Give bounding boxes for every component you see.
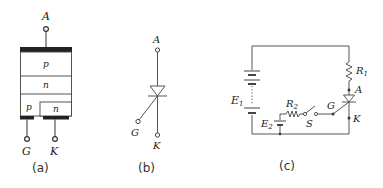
layer-p1-label: p xyxy=(43,59,49,69)
e2-label: E2 xyxy=(260,118,273,131)
gate-lead-b xyxy=(139,96,158,120)
thyristor-c xyxy=(344,95,355,102)
switch-contact-right xyxy=(314,112,317,115)
gate-terminal-b xyxy=(136,119,140,123)
gate-label-b: G xyxy=(131,127,139,138)
e1-label: E1 xyxy=(230,94,244,108)
gate-contact xyxy=(20,116,34,120)
switch-label: S xyxy=(306,118,313,129)
gate-lead-c xyxy=(333,102,349,114)
layer-p2-label: p xyxy=(26,102,32,112)
panel-a-structure: A p n p n G K (a) xyxy=(20,10,72,175)
cathode-label-b: K xyxy=(152,140,161,151)
resistor-r2 xyxy=(280,111,304,117)
r2-label: R2 xyxy=(285,98,299,111)
cathode-contact xyxy=(43,116,69,120)
gate-label-a: G xyxy=(22,145,31,158)
layer-n2-label: n xyxy=(53,104,59,114)
anode-label-a: A xyxy=(41,10,50,23)
cathode-label-c: K xyxy=(352,113,361,124)
gate-label-c: G xyxy=(327,100,335,111)
gate-terminal-a xyxy=(25,137,30,142)
battery-e1 xyxy=(244,71,260,113)
cathode-node-c xyxy=(348,117,351,120)
layer-n1-label: n xyxy=(43,80,49,90)
panel-c-labels: E1 R1 A G K R2 S E2 (c) xyxy=(230,65,368,173)
anode-terminal-b xyxy=(155,48,159,52)
cathode-terminal-b xyxy=(155,133,159,137)
caption-a: (a) xyxy=(32,161,49,175)
thyristor-figure: A p n p n G K (a) A G xyxy=(0,0,383,188)
caption-c: (c) xyxy=(279,159,295,173)
r1-label: R1 xyxy=(355,65,368,78)
anode-contact xyxy=(20,47,72,52)
battery-e2 xyxy=(274,121,286,125)
resistor-r1 xyxy=(346,62,352,90)
panel-b-symbol: A G K (b) xyxy=(131,34,167,175)
anode-label-b: A xyxy=(152,34,160,45)
anode-terminal-a xyxy=(44,27,49,32)
e2-ground-node xyxy=(279,133,281,135)
switch-s xyxy=(306,106,315,113)
anode-label-c: A xyxy=(354,84,362,95)
cathode-terminal-a xyxy=(53,137,58,142)
thyristor-triangle xyxy=(150,86,165,96)
cathode-label-a: K xyxy=(49,145,59,158)
caption-b: (b) xyxy=(138,161,155,175)
top-wire xyxy=(252,46,349,70)
